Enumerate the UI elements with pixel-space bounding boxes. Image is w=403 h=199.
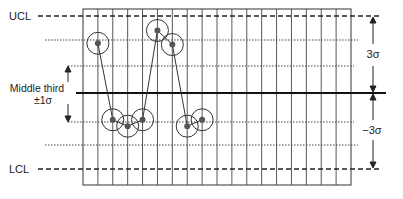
data-point — [199, 117, 205, 123]
lower-sigma-label: −3σ — [362, 124, 382, 136]
lcl-label: LCL — [9, 163, 29, 175]
upper-sigma-label: 3σ — [367, 48, 380, 60]
data-point — [154, 28, 160, 34]
data-point — [125, 123, 131, 129]
middle-third-sigma-label: ±1σ — [34, 94, 53, 106]
ucl-label: UCL — [9, 10, 31, 22]
data-point — [110, 117, 116, 123]
data-points — [87, 20, 213, 138]
data-point — [169, 42, 175, 48]
middle-third-arrows — [65, 66, 71, 122]
data-point — [140, 117, 146, 123]
middle-third-label: Middle third — [10, 82, 64, 94]
vertical-grid-lines — [98, 9, 336, 185]
data-point — [184, 123, 190, 129]
data-point — [95, 40, 101, 46]
control-chart: UCL LCL Middle third ±1σ 3σ −3σ — [0, 0, 403, 199]
